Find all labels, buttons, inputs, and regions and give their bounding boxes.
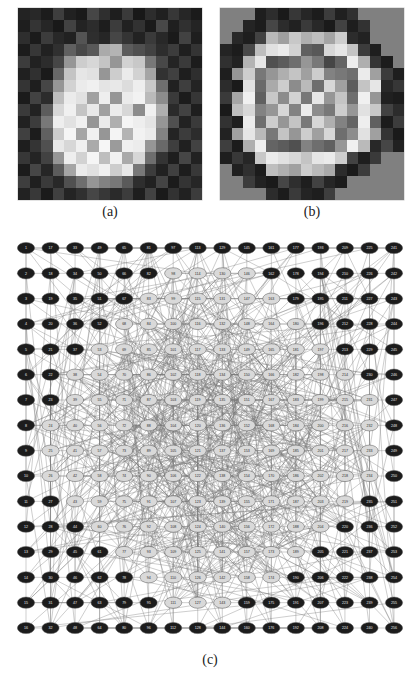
graph-node[interactable]: 31: [42, 597, 59, 608]
graph-node[interactable]: 187: [287, 496, 304, 507]
graph-node[interactable]: 170: [263, 470, 280, 481]
graph-node[interactable]: 101: [165, 344, 182, 355]
graph-node[interactable]: 219: [336, 496, 353, 507]
graph-node[interactable]: 86: [140, 369, 157, 380]
graph-node[interactable]: 74: [116, 470, 133, 481]
graph-node[interactable]: 44: [66, 521, 83, 532]
graph-node[interactable]: 28: [42, 521, 59, 532]
graph-node[interactable]: 252: [385, 521, 402, 532]
graph-node[interactable]: 136: [214, 420, 231, 431]
graph-node[interactable]: 239: [361, 597, 378, 608]
graph-node[interactable]: 15: [17, 597, 34, 608]
graph-node[interactable]: 179: [287, 293, 304, 304]
graph-node[interactable]: 169: [263, 445, 280, 456]
graph-node[interactable]: 109: [165, 546, 182, 557]
graph-node[interactable]: 35: [66, 293, 83, 304]
graph-node[interactable]: 71: [116, 394, 133, 405]
graph-node[interactable]: 176: [263, 622, 280, 633]
graph-node[interactable]: 212: [336, 318, 353, 329]
graph-node[interactable]: 161: [263, 242, 280, 253]
graph-node[interactable]: 51: [91, 293, 108, 304]
graph-node[interactable]: 76: [116, 521, 133, 532]
graph-node[interactable]: 188: [287, 521, 304, 532]
graph-node[interactable]: 139: [214, 496, 231, 507]
graph-node[interactable]: 81: [140, 242, 157, 253]
graph-node[interactable]: 193: [312, 242, 329, 253]
graph-node[interactable]: 118: [189, 369, 206, 380]
graph-node[interactable]: 125: [189, 546, 206, 557]
graph-node[interactable]: 231: [361, 394, 378, 405]
graph-node[interactable]: 11: [17, 496, 34, 507]
graph-node[interactable]: 92: [140, 521, 157, 532]
graph-node[interactable]: 2: [17, 268, 34, 279]
graph-node[interactable]: 115: [189, 293, 206, 304]
graph-node[interactable]: 198: [312, 369, 329, 380]
graph-node[interactable]: 18: [42, 268, 59, 279]
graph-node[interactable]: 7: [17, 394, 34, 405]
graph-node[interactable]: 79: [116, 597, 133, 608]
graph-node[interactable]: 145: [238, 242, 255, 253]
graph-node[interactable]: 47: [66, 597, 83, 608]
graph-node[interactable]: 189: [287, 546, 304, 557]
graph-node[interactable]: 194: [312, 268, 329, 279]
graph-node[interactable]: 120: [189, 420, 206, 431]
graph-node[interactable]: 36: [66, 318, 83, 329]
graph-node[interactable]: 54: [91, 369, 108, 380]
graph-node[interactable]: 132: [214, 318, 231, 329]
graph-node[interactable]: 167: [263, 394, 280, 405]
graph-node[interactable]: 56: [91, 420, 108, 431]
graph-node[interactable]: 72: [116, 420, 133, 431]
graph-node[interactable]: 55: [91, 394, 108, 405]
graph-node[interactable]: 45: [66, 546, 83, 557]
graph-node[interactable]: 171: [263, 496, 280, 507]
graph-node[interactable]: 140: [214, 521, 231, 532]
graph-node[interactable]: 20: [42, 318, 59, 329]
graph-node[interactable]: 218: [336, 470, 353, 481]
graph-node[interactable]: 241: [385, 242, 402, 253]
graph-node[interactable]: 27: [42, 496, 59, 507]
graph-node[interactable]: 41: [66, 445, 83, 456]
graph-node[interactable]: 184: [287, 420, 304, 431]
graph-node[interactable]: 122: [189, 470, 206, 481]
graph-node[interactable]: 223: [336, 597, 353, 608]
graph-node[interactable]: 234: [361, 470, 378, 481]
graph-node[interactable]: 165: [263, 344, 280, 355]
graph-node[interactable]: 254: [385, 572, 402, 583]
graph-node[interactable]: 12: [17, 521, 34, 532]
graph-node[interactable]: 106: [165, 470, 182, 481]
graph-node[interactable]: 78: [116, 572, 133, 583]
graph-node[interactable]: 93: [140, 546, 157, 557]
graph-node[interactable]: 153: [238, 445, 255, 456]
graph-node[interactable]: 233: [361, 445, 378, 456]
graph-node[interactable]: 181: [287, 344, 304, 355]
graph-node[interactable]: 210: [336, 268, 353, 279]
graph-node[interactable]: 173: [263, 546, 280, 557]
graph-node[interactable]: 146: [238, 268, 255, 279]
graph-node[interactable]: 16: [17, 622, 34, 633]
graph-node[interactable]: 177: [287, 242, 304, 253]
graph-node[interactable]: 138: [214, 470, 231, 481]
graph-node[interactable]: 52: [91, 318, 108, 329]
graph-node[interactable]: 107: [165, 496, 182, 507]
graph-node[interactable]: 108: [165, 521, 182, 532]
graph-node[interactable]: 204: [312, 521, 329, 532]
graph-node[interactable]: 143: [214, 597, 231, 608]
graph-node[interactable]: 185: [287, 445, 304, 456]
graph-node[interactable]: 249: [385, 445, 402, 456]
graph-node[interactable]: 113: [189, 242, 206, 253]
graph-node[interactable]: 242: [385, 268, 402, 279]
graph-node[interactable]: 150: [238, 369, 255, 380]
graph-node[interactable]: 245: [385, 344, 402, 355]
graph-node[interactable]: 64: [91, 622, 108, 633]
graph-node[interactable]: 5: [17, 344, 34, 355]
graph-node[interactable]: 211: [336, 293, 353, 304]
graph-node[interactable]: 111: [165, 597, 182, 608]
graph-node[interactable]: 215: [336, 394, 353, 405]
graph-node[interactable]: 175: [263, 597, 280, 608]
graph-node[interactable]: 19: [42, 293, 59, 304]
graph-node[interactable]: 243: [385, 293, 402, 304]
graph-node[interactable]: 230: [361, 369, 378, 380]
graph-node[interactable]: 25: [42, 445, 59, 456]
graph-node[interactable]: 148: [238, 318, 255, 329]
graph-node[interactable]: 222: [336, 572, 353, 583]
